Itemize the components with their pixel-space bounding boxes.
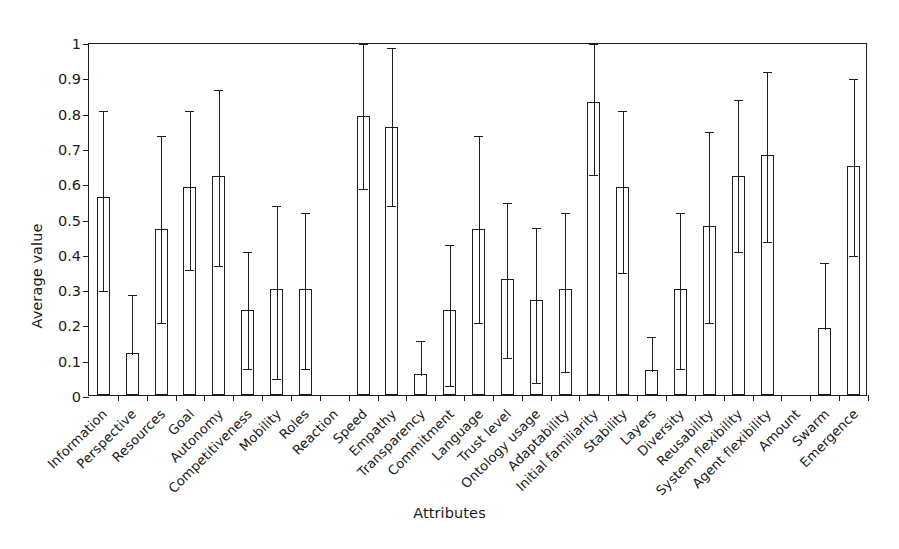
- error-bar-line: [479, 136, 480, 323]
- error-bar-line: [738, 100, 739, 252]
- y-axis-title: Average value: [24, 100, 50, 453]
- plot-area: 00.10.20.30.40.50.60.70.80.91: [88, 43, 867, 396]
- error-bar-cap-upper: [589, 44, 598, 45]
- error-bar-line: [450, 245, 451, 386]
- error-bar-cap-lower: [359, 189, 368, 190]
- error-bar-cap-lower: [387, 206, 396, 207]
- y-axis-tick-label: 0.3: [58, 282, 89, 300]
- error-bar-cap-upper: [185, 111, 194, 112]
- error-bar-cap-upper: [99, 111, 108, 112]
- error-bar-cap-upper: [820, 263, 829, 264]
- error-bar-cap-upper: [128, 295, 137, 296]
- y-axis-tick-label: 0.6: [58, 176, 89, 194]
- y-axis-tick-label: 0: [72, 388, 89, 406]
- error-bar-cap-upper: [849, 79, 858, 80]
- error-bar-line: [854, 79, 855, 256]
- error-bar-cap-lower: [849, 256, 858, 257]
- error-bar-line: [421, 341, 422, 376]
- error-bar-cap-upper: [561, 213, 570, 214]
- error-bar-line: [680, 213, 681, 368]
- error-bar-cap-lower: [705, 323, 714, 324]
- x-axis-title: Attributes: [0, 505, 899, 521]
- error-bar-cap-upper: [618, 111, 627, 112]
- error-bar-cap-lower: [99, 291, 108, 292]
- error-bar-cap-lower: [185, 270, 194, 271]
- error-bar-cap-lower: [157, 323, 166, 324]
- error-bar-line: [565, 213, 566, 372]
- error-bar-cap-upper: [359, 44, 368, 45]
- error-bar-cap-upper: [214, 90, 223, 91]
- error-bar-line: [190, 111, 191, 270]
- error-bar-cap-lower: [734, 252, 743, 253]
- error-bar-line: [219, 90, 220, 267]
- error-bar-cap-lower: [214, 266, 223, 267]
- error-bar-line: [248, 252, 249, 368]
- error-bar-cap-upper: [676, 213, 685, 214]
- y-axis-tick-label: 1: [72, 35, 89, 53]
- error-bar-cap-upper: [416, 341, 425, 342]
- error-bar-cap-upper: [445, 245, 454, 246]
- error-bar-cap-lower: [763, 242, 772, 243]
- error-bar-line: [594, 44, 595, 175]
- y-axis-tick-label: 0.5: [58, 212, 89, 230]
- y-axis-tick-label: 0.1: [58, 353, 89, 371]
- y-axis-tick-label: 0.2: [58, 317, 89, 335]
- error-bar-line: [709, 132, 710, 323]
- error-bar-line: [161, 136, 162, 323]
- error-bar-line: [536, 228, 537, 383]
- error-bar-cap-upper: [647, 337, 656, 338]
- y-axis-tick-label: 0.9: [58, 70, 89, 88]
- error-bar-line: [623, 111, 624, 273]
- error-bar-cap-upper: [474, 136, 483, 137]
- error-bar-cap-upper: [157, 136, 166, 137]
- error-bar-cap-lower: [474, 323, 483, 324]
- error-bar-line: [103, 111, 104, 291]
- error-bar-line: [825, 263, 826, 330]
- error-bar-cap-upper: [532, 228, 541, 229]
- error-bar-line: [767, 72, 768, 241]
- y-axis-tick-label: 0.7: [58, 141, 89, 159]
- error-bar-line: [507, 203, 508, 358]
- error-bar-cap-upper: [503, 203, 512, 204]
- error-bar-cap-upper: [272, 206, 281, 207]
- y-axis-tick-label: 0.4: [58, 247, 89, 265]
- error-bar-cap-upper: [734, 100, 743, 101]
- error-bar-cap-upper: [705, 132, 714, 133]
- y-axis-tick-label: 0.8: [58, 106, 89, 124]
- error-bar-cap-upper: [763, 72, 772, 73]
- error-bar-line: [132, 295, 133, 355]
- error-bar-cap-upper: [387, 48, 396, 49]
- error-bar-line: [392, 48, 393, 207]
- error-bar-cap-lower: [589, 175, 598, 176]
- error-bar-cap-upper: [243, 252, 252, 253]
- error-bar-cap-lower: [618, 273, 627, 274]
- chart-figure: Average value 00.10.20.30.40.50.60.70.80…: [0, 0, 899, 549]
- error-bar-cap-upper: [301, 213, 310, 214]
- error-bar-line: [363, 44, 364, 189]
- error-bar-line: [277, 206, 278, 379]
